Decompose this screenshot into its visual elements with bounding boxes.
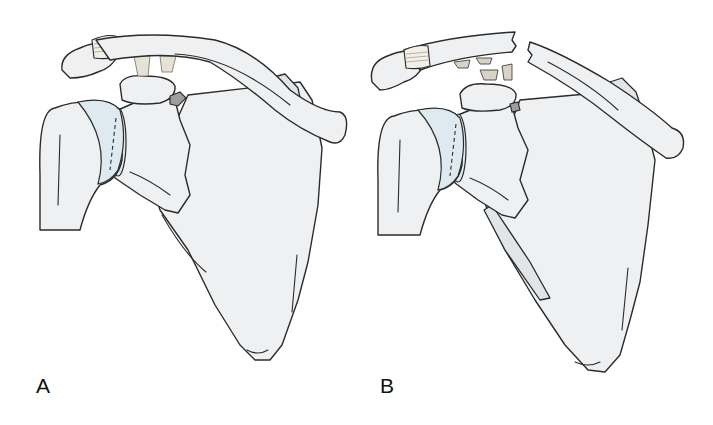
- torn-ligament-b1: [454, 60, 470, 68]
- ac-joint-b: [510, 102, 520, 112]
- coracoid-b: [460, 84, 516, 111]
- panel-b-illustration: [371, 32, 683, 372]
- torn-ligament-b2: [476, 58, 492, 64]
- coracoid-a: [120, 76, 175, 104]
- torn-ligament-b3: [480, 70, 498, 80]
- torn-ligament-b4: [502, 64, 512, 80]
- panel-label-b: B: [380, 374, 394, 398]
- panel-a-illustration: [40, 35, 347, 360]
- panel-label-a: A: [36, 374, 50, 398]
- shoulder-figure: [0, 0, 713, 425]
- cc-ligament-a2: [160, 56, 176, 72]
- cc-ligament-a: [134, 56, 150, 76]
